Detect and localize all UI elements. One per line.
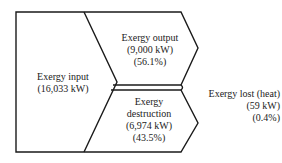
- lost-percent: (0.4%): [194, 112, 280, 124]
- lost-title: Exergy lost (heat): [194, 88, 280, 100]
- output-title: Exergy output: [110, 32, 190, 44]
- destruction-title-2: destruction: [114, 108, 184, 120]
- destruction-value: (6,974 kW): [114, 120, 184, 132]
- lost-band-tip: [181, 85, 183, 90]
- lost-value: (59 kW): [194, 100, 280, 112]
- output-value: (9,000 kW): [110, 44, 190, 56]
- destruction-label: Exergy destruction (6,974 kW) (43.5%): [114, 96, 184, 144]
- output-label: Exergy output (9,000 kW) (56.1%): [110, 32, 190, 68]
- input-label: Exergy input (16,033 kW): [18, 71, 108, 95]
- destruction-title-1: Exergy: [114, 96, 184, 108]
- lost-label: Exergy lost (heat) (59 kW) (0.4%): [194, 88, 280, 124]
- input-value: (16,033 kW): [18, 83, 108, 95]
- output-percent: (56.1%): [110, 56, 190, 68]
- destruction-percent: (43.5%): [114, 132, 184, 144]
- input-title: Exergy input: [18, 71, 108, 83]
